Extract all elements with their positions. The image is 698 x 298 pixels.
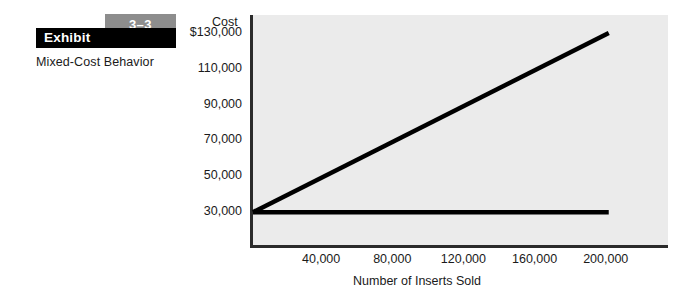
y-tick-label: 90,000 <box>122 97 242 111</box>
y-tick-label: 50,000 <box>122 168 242 182</box>
plot-series-lines <box>253 15 671 248</box>
y-tick-label: 30,000 <box>122 204 242 218</box>
mixed-cost-behavior-chart: Cost 30,00050,00070,00090,000110,000$130… <box>0 0 698 298</box>
y-tick-label: 110,000 <box>122 61 242 75</box>
y-tick-label: 70,000 <box>122 132 242 146</box>
plot-area <box>250 15 668 248</box>
x-axis-title: Number of Inserts Sold <box>0 274 698 288</box>
exhibit-word-label: Exhibit <box>44 29 90 47</box>
series-line <box>253 33 609 212</box>
x-axis-tick-labels: 40,00080,000120,000160,000200,000 <box>0 252 698 272</box>
x-axis-title-text: Number of Inserts Sold <box>353 274 481 288</box>
y-tick-label: $130,000 <box>122 25 242 39</box>
x-tick-label: 200,000 <box>556 252 656 266</box>
